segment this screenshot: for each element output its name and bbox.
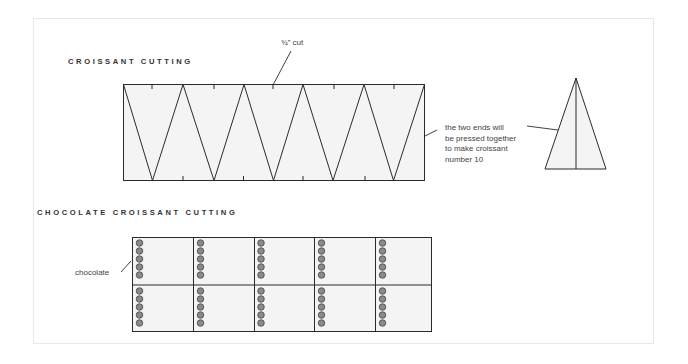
chocolate-piece <box>379 312 386 319</box>
chocolate-piece <box>379 256 386 263</box>
chocolate-piece <box>318 240 325 247</box>
croissant-ten-triangle <box>545 78 606 169</box>
chocolate-piece <box>258 304 265 311</box>
chocolate-piece <box>379 304 386 311</box>
chocolate-piece <box>197 272 204 279</box>
chocolate-piece <box>197 296 204 303</box>
note-leader-line <box>425 130 437 136</box>
chocolate-piece <box>318 296 325 303</box>
chocolate-piece <box>197 320 204 327</box>
chocolate-piece <box>318 304 325 311</box>
chocolate-piece <box>379 320 386 327</box>
chocolate-dough-grid <box>133 238 432 332</box>
chocolate-piece <box>258 240 265 247</box>
croissant-dough-strip <box>124 85 425 181</box>
chocolate-piece <box>318 264 325 271</box>
chocolate-piece <box>258 288 265 295</box>
chocolate-piece <box>258 264 265 271</box>
chocolate-piece <box>258 312 265 319</box>
chocolate-piece <box>379 288 386 295</box>
triangle-leader-line <box>527 126 558 130</box>
chocolate-piece <box>197 288 204 295</box>
chocolate-piece <box>318 320 325 327</box>
diagram-drawing <box>0 0 688 364</box>
chocolate-piece <box>318 248 325 255</box>
chocolate-piece <box>197 304 204 311</box>
chocolate-piece <box>197 312 204 319</box>
chocolate-piece <box>258 248 265 255</box>
chocolate-piece <box>258 272 265 279</box>
chocolate-piece <box>379 240 386 247</box>
chocolate-piece <box>197 240 204 247</box>
chocolate-piece <box>318 312 325 319</box>
chocolate-piece <box>136 304 143 311</box>
chocolate-piece <box>197 256 204 263</box>
chocolate-piece <box>258 256 265 263</box>
cut-leader-line <box>273 51 291 85</box>
chocolate-piece <box>136 320 143 327</box>
chocolate-piece <box>258 320 265 327</box>
chocolate-piece <box>136 272 143 279</box>
chocolate-piece <box>318 272 325 279</box>
chocolate-piece <box>136 248 143 255</box>
chocolate-piece <box>379 264 386 271</box>
chocolate-piece <box>379 272 386 279</box>
chocolate-piece <box>318 288 325 295</box>
chocolate-piece <box>136 240 143 247</box>
chocolate-piece <box>258 296 265 303</box>
chocolate-piece <box>379 296 386 303</box>
chocolate-piece <box>318 256 325 263</box>
chocolate-piece <box>136 256 143 263</box>
chocolate-piece <box>197 264 204 271</box>
chocolate-piece <box>136 312 143 319</box>
chocolate-leader-line <box>121 261 131 272</box>
chocolate-piece <box>136 264 143 271</box>
chocolate-piece <box>379 248 386 255</box>
chocolate-piece <box>136 288 143 295</box>
chocolate-piece <box>197 248 204 255</box>
chocolate-piece <box>136 296 143 303</box>
